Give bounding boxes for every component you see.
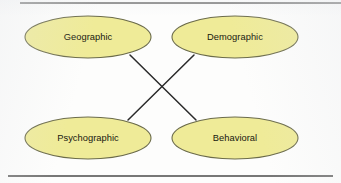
node-ellipse-behavioral[interactable]: [172, 117, 298, 159]
node-ellipse-demographic[interactable]: [172, 16, 298, 58]
node-ellipse-geographic[interactable]: [25, 16, 151, 58]
segmentation-bases-figure: Geographic Demographic Psychographic Beh…: [0, 0, 341, 183]
node-ellipse-psychographic[interactable]: [25, 117, 151, 159]
connector-demographic-psychographic: [128, 55, 194, 120]
connector-geographic-behavioral: [130, 55, 196, 120]
connector-group: [128, 55, 196, 120]
diagram-canvas: [0, 0, 341, 183]
